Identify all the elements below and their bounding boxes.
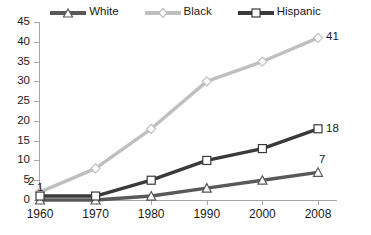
data-point-marker: [92, 192, 100, 200]
data-point-label: 41: [326, 30, 339, 42]
line-chart: White Black Hispanic 051015202530354045: [0, 0, 371, 235]
data-point-label: 2: [28, 175, 34, 187]
data-point-marker: [258, 145, 266, 153]
series-white: [36, 168, 323, 204]
data-point-marker: [36, 192, 44, 200]
data-point-label: 7: [319, 153, 325, 165]
data-point-marker: [147, 176, 155, 184]
series-hispanic: [36, 125, 322, 200]
series-line: [40, 129, 318, 196]
data-point-marker: [203, 156, 211, 164]
data-point-label: 1: [37, 181, 43, 193]
data-point-marker: [314, 125, 322, 133]
series-layer: [0, 0, 371, 235]
data-point-label: 18: [326, 122, 339, 134]
